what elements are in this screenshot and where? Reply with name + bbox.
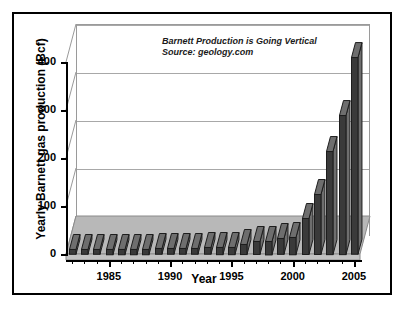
bar-1994 xyxy=(216,247,222,254)
bar-3d-faces-2004 xyxy=(339,100,351,256)
bar-3d-faces-1999 xyxy=(277,223,289,256)
bar-1995 xyxy=(228,247,234,254)
y-tick-100 xyxy=(61,206,66,208)
chart-figure: 400300200100019851990199520002005 Yearly… xyxy=(0,0,410,318)
bar-1993 xyxy=(204,247,210,254)
bar-1987 xyxy=(130,249,136,254)
bar-2003 xyxy=(326,151,332,254)
x-tick-1994 xyxy=(219,260,220,264)
x-tick-1995 xyxy=(231,260,233,267)
bar-3d-faces-1991 xyxy=(179,233,191,256)
bar-1985 xyxy=(106,249,112,254)
bar-1996 xyxy=(240,244,246,254)
bar-3d-faces-2001 xyxy=(302,203,314,256)
y-tick-200 xyxy=(61,158,66,160)
plot-area: 400300200100019851990199520002005 Yearly… xyxy=(14,14,394,297)
x-tick-1983 xyxy=(84,260,85,264)
bar-3d-faces-1987 xyxy=(130,234,142,256)
chart-annotation: Barnett Production is Going Vertical Sou… xyxy=(162,36,317,59)
bar-2005 xyxy=(351,57,357,254)
x-axis-title: Year xyxy=(14,272,394,286)
x-tick-1998 xyxy=(268,260,269,264)
bar-1991 xyxy=(179,248,185,254)
bar-3d-faces-1986 xyxy=(118,234,130,256)
bar-3d-faces-2005 xyxy=(351,42,363,256)
bar-1992 xyxy=(191,248,197,254)
y-tick-400 xyxy=(61,62,66,64)
x-tick-1987 xyxy=(133,260,134,264)
bar-1982 xyxy=(69,249,75,254)
bar-1998 xyxy=(265,241,271,254)
y-tick-label-0: 0 xyxy=(22,247,56,259)
x-tick-1997 xyxy=(256,260,257,264)
x-tick-1989 xyxy=(158,260,159,264)
bar-3d-faces-2002 xyxy=(314,179,326,256)
x-tick-1999 xyxy=(280,260,281,264)
annotation-line-1: Barnett Production is Going Vertical xyxy=(162,36,317,47)
x-tick-1982 xyxy=(72,260,73,264)
bar-1990 xyxy=(167,248,173,254)
bar-3d-faces-1992 xyxy=(191,233,203,256)
x-tick-2000 xyxy=(293,260,295,267)
bar-1984 xyxy=(93,249,99,254)
bar-3d-faces-1993 xyxy=(204,232,216,256)
annotation-line-2: Source: geology.com xyxy=(162,47,317,58)
x-tick-2005 xyxy=(354,260,356,267)
bar-1989 xyxy=(155,248,161,254)
bar-2000 xyxy=(289,237,295,254)
bar-3d-faces-1990 xyxy=(167,233,179,256)
bar-3d-faces-1985 xyxy=(106,234,118,256)
x-tick-1985 xyxy=(109,260,111,267)
bar-3d-faces-2003 xyxy=(326,136,338,256)
bar-3d-faces-1996 xyxy=(240,229,252,256)
x-tick-1993 xyxy=(207,260,208,264)
chart-frame: 400300200100019851990199520002005 Yearly… xyxy=(12,12,392,295)
x-tick-1986 xyxy=(121,260,122,264)
x-tick-1990 xyxy=(170,260,172,267)
bar-3d-faces-1998 xyxy=(265,226,277,256)
bar-3d-faces-2000 xyxy=(289,222,301,256)
bar-3d-faces-1983 xyxy=(81,234,93,256)
y-axis-line xyxy=(66,62,68,256)
bar-3d-faces-1989 xyxy=(155,233,167,256)
x-tick-2001 xyxy=(305,260,306,264)
bar-1986 xyxy=(118,249,124,254)
bar-1988 xyxy=(142,249,148,254)
x-tick-2002 xyxy=(317,260,318,264)
bar-1999 xyxy=(277,238,283,254)
bar-1983 xyxy=(81,249,87,254)
bar-2002 xyxy=(314,194,320,254)
bar-3d-faces-1984 xyxy=(93,234,105,256)
x-tick-2004 xyxy=(342,260,343,264)
x-tick-1992 xyxy=(195,260,196,264)
x-tick-2003 xyxy=(329,260,330,264)
bar-2004 xyxy=(339,115,345,254)
x-tick-1996 xyxy=(244,260,245,264)
y-axis-title: Yearly Barnett gas production (Bcf) xyxy=(34,34,48,244)
bar-3d-faces-1997 xyxy=(253,226,265,256)
bar-2001 xyxy=(302,218,308,254)
y-tick-300 xyxy=(61,110,66,112)
bar-1997 xyxy=(253,241,259,254)
x-tick-1988 xyxy=(146,260,147,264)
bar-3d-faces-1994 xyxy=(216,232,228,256)
x-tick-1984 xyxy=(97,260,98,264)
bar-3d-faces-1982 xyxy=(69,234,81,256)
x-tick-1991 xyxy=(182,260,183,264)
bar-3d-faces-1988 xyxy=(142,234,154,256)
bar-3d-faces-1995 xyxy=(228,232,240,256)
y-tick-0 xyxy=(61,254,66,256)
